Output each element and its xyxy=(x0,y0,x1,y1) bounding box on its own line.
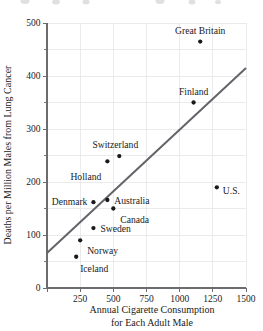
x-tick-label: 500 xyxy=(106,294,121,304)
data-point-label: Holland xyxy=(70,171,101,182)
data-point-label: U.S. xyxy=(223,185,240,196)
x-tick-label: 1250 xyxy=(203,294,222,304)
top-crop-artifacts xyxy=(21,0,222,5)
data-point xyxy=(91,226,95,230)
data-point xyxy=(105,159,109,163)
x-tick-label: 750 xyxy=(139,294,154,304)
x-axis-title-line1: Annual Cigarette Consumption xyxy=(90,304,215,315)
y-tick-label: 500 xyxy=(26,18,41,28)
scatter-plot-svg: 0100200300400500250500750100012501500 Ic… xyxy=(0,0,263,331)
data-point-label: Denmark xyxy=(52,196,88,207)
data-point-label: Canada xyxy=(120,214,150,225)
data-point xyxy=(117,154,121,158)
data-point xyxy=(198,39,202,43)
data-point xyxy=(91,200,95,204)
data-point xyxy=(215,185,219,189)
x-tick-label: 1500 xyxy=(237,294,256,304)
tick-marks xyxy=(43,23,246,292)
y-tick-label: 200 xyxy=(26,177,41,187)
y-axis-title: Deaths per Million Males from Lung Cance… xyxy=(2,65,13,245)
data-point-label: Sweden xyxy=(100,223,131,234)
data-point xyxy=(105,198,109,202)
data-point xyxy=(74,255,78,259)
data-point-label: Switzerland xyxy=(92,139,138,150)
y-tick-label: 0 xyxy=(36,283,41,293)
gridlines xyxy=(47,23,246,288)
y-tick-label: 100 xyxy=(26,230,41,240)
data-point xyxy=(191,100,195,104)
scatter-plot-figure: 0100200300400500250500750100012501500 Ic… xyxy=(0,0,263,331)
data-point-label: Iceland xyxy=(80,263,108,274)
data-point-label: Great Britain xyxy=(175,25,226,36)
x-axis-title-line2: for Each Adult Male xyxy=(111,317,193,328)
x-tick-label: 250 xyxy=(73,294,88,304)
data-point xyxy=(111,206,115,210)
y-tick-label: 300 xyxy=(26,124,41,134)
x-tick-label: 1000 xyxy=(170,294,189,304)
data-point-label: Finland xyxy=(179,86,209,97)
data-point-label: Norway xyxy=(87,245,118,256)
data-point xyxy=(78,238,82,242)
data-point-label: Australia xyxy=(114,195,150,206)
y-tick-label: 400 xyxy=(26,71,41,81)
